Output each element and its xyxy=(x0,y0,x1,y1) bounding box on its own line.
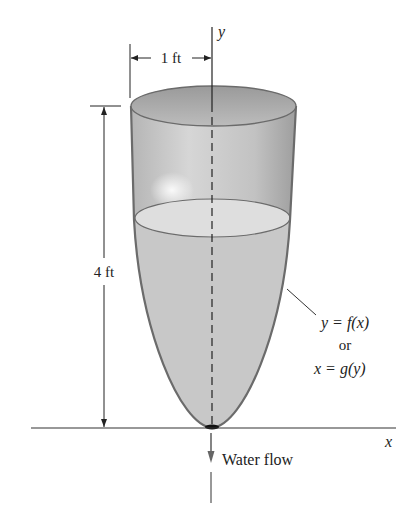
flow-arrow-head xyxy=(208,451,215,463)
tank-rim xyxy=(131,86,296,126)
curve-leader-line xyxy=(287,289,316,315)
water-surface xyxy=(135,199,290,237)
curve-label-or: or xyxy=(339,337,352,353)
tank-diagram: y x 1 ft 4 ft y = f(x) or x = g(y) Water… xyxy=(0,0,409,517)
height-arrow-bottom xyxy=(101,419,107,427)
curve-label-g: x = g(y) xyxy=(313,360,366,378)
x-axis-label: x xyxy=(384,433,392,450)
height-arrow-top xyxy=(101,107,107,115)
drain-outlet xyxy=(205,425,219,430)
curve-label-f: y = f(x) xyxy=(319,314,369,332)
radius-arrow-left xyxy=(131,55,138,61)
radius-arrow-right xyxy=(204,55,211,61)
y-axis-label: y xyxy=(216,23,226,41)
water-flow-label: Water flow xyxy=(222,451,294,468)
height-label: 4 ft xyxy=(94,264,115,280)
radius-label: 1 ft xyxy=(161,50,182,66)
